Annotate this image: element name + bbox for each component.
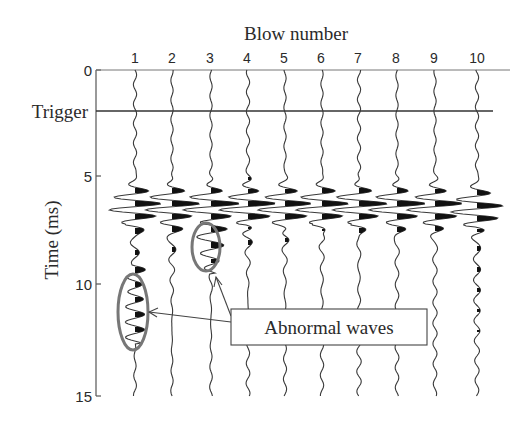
x-tick-8: 8 [392, 50, 400, 66]
trace-lobe [248, 201, 275, 206]
trace-lobe [135, 201, 160, 206]
y-tick-10: 10 [75, 276, 92, 293]
annotation-label: Abnormal waves [264, 317, 393, 338]
trace-lobe [477, 330, 480, 332]
trace-blow-3 [183, 70, 238, 396]
trace-lobe [135, 228, 144, 234]
y-axis [96, 70, 101, 396]
x-tick-4: 4 [243, 50, 251, 66]
trace-blow-1 [110, 70, 161, 396]
seismic-traces [110, 70, 503, 396]
x-tick-5: 5 [280, 50, 288, 66]
y-tick-5: 5 [84, 168, 92, 185]
x-tick-3: 3 [206, 50, 214, 66]
trace-lobe [435, 201, 461, 206]
trace-blow-10 [451, 70, 502, 396]
trace-blow-8 [369, 70, 424, 396]
arrow-to-blow-1 [149, 312, 231, 322]
trace-lobe [322, 201, 348, 206]
trace-lobe [477, 309, 480, 312]
x-tick-labels: 1 2 3 4 5 6 7 8 9 10 [131, 50, 485, 66]
x-tick-6: 6 [317, 50, 325, 66]
x-tick-10: 10 [469, 50, 485, 66]
trace-lobe [322, 229, 325, 231]
abnormal-ellipse-blow-1 [118, 274, 148, 350]
trace-blow-2 [146, 70, 199, 396]
x-tick-1: 1 [131, 50, 139, 66]
y-axis-label: Time (ms) [41, 200, 63, 279]
x-tick-2: 2 [168, 50, 176, 66]
trace-lobe [172, 247, 176, 252]
trace-blow-9 [407, 70, 461, 396]
trace-blow-4 [220, 70, 275, 396]
y-tick-15: 15 [75, 388, 92, 405]
trace-blow-6 [296, 70, 348, 396]
trace-blow-5 [258, 70, 310, 396]
x-tick-9: 9 [430, 50, 438, 66]
arrow-to-blow-3 [216, 277, 231, 316]
trace-lobe [397, 201, 424, 206]
trace-lobe [248, 177, 251, 180]
x-tick-7: 7 [354, 50, 362, 66]
seismic-trace-chart: Blow number 1 2 3 4 5 6 7 8 9 10 0 5 10 … [0, 0, 532, 422]
trace-lobe [172, 226, 183, 232]
trace-lobe [477, 267, 481, 272]
trace-lobe [285, 201, 310, 206]
trigger-label: Trigger [32, 101, 89, 122]
x-axis-label: Blow number [244, 23, 349, 44]
trace-lobe [211, 201, 239, 206]
trace-lobe [359, 228, 366, 233]
annotation-arrows [149, 277, 231, 322]
y-tick-0: 0 [84, 62, 92, 79]
trace-lobe [477, 288, 480, 292]
